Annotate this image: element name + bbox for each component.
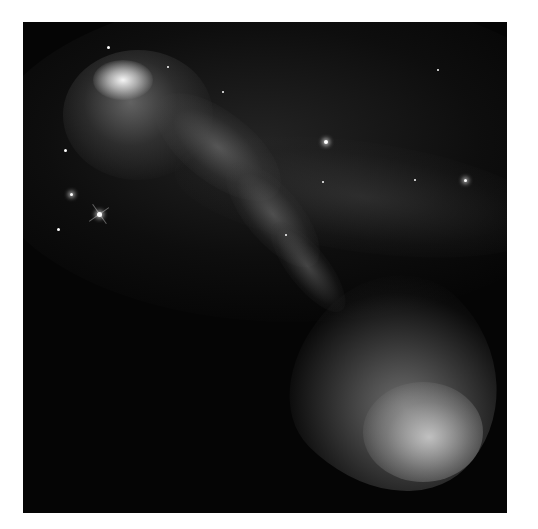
- bow-shock-cloud: [250, 239, 507, 513]
- star: [285, 234, 287, 236]
- star: [64, 149, 67, 152]
- star: [414, 179, 416, 181]
- star: [324, 140, 328, 144]
- star: [464, 179, 467, 182]
- jet-source-bright-core: [93, 60, 153, 100]
- star: [70, 193, 73, 196]
- star: [437, 69, 439, 71]
- astronomical-image: [23, 22, 507, 513]
- jet-segment-upper: [137, 73, 298, 221]
- nebula-haze-band: [167, 116, 507, 278]
- star: [107, 46, 110, 49]
- star: [222, 91, 224, 93]
- bow-shock-bright-core: [363, 382, 483, 482]
- jet-segment-lower: [258, 211, 357, 322]
- nebula-haze-upper: [23, 22, 507, 322]
- jet-source-cloud-glow: [63, 50, 213, 180]
- star: [167, 66, 169, 68]
- star: [322, 181, 324, 183]
- jet-segment-middle: [210, 147, 336, 282]
- diffraction-spike: [92, 204, 107, 224]
- star: [57, 228, 60, 231]
